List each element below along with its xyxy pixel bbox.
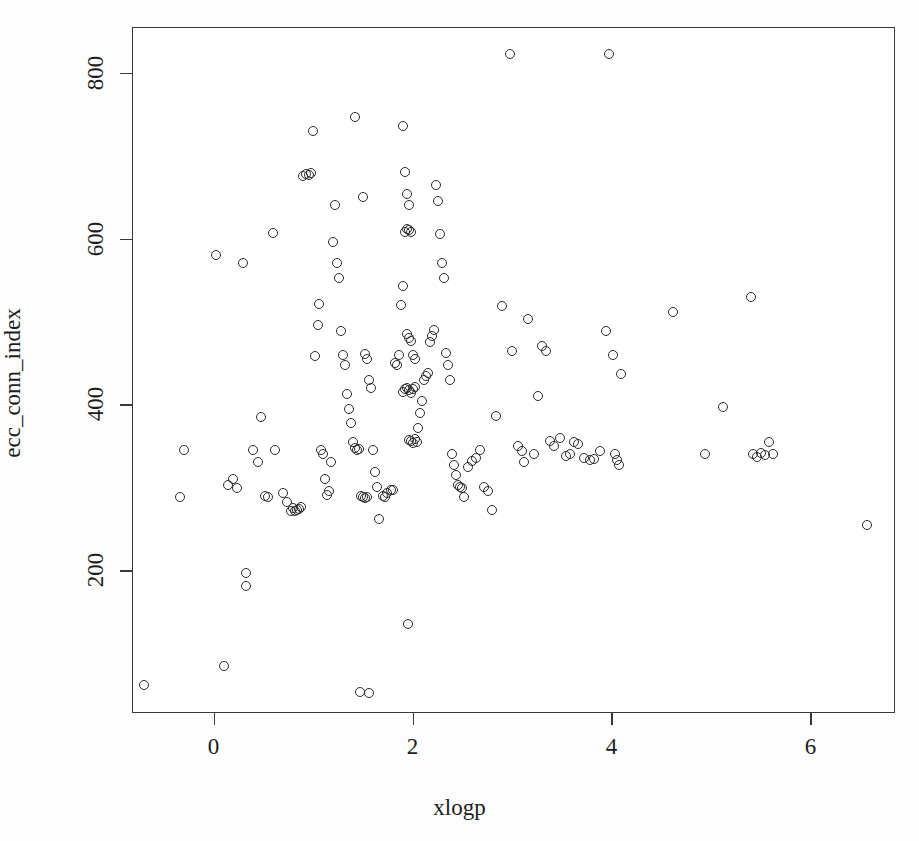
y-axis-tick	[120, 73, 132, 75]
x-axis-tick-label: 6	[805, 735, 817, 758]
x-axis-tick	[810, 713, 812, 725]
x-axis-tick-label: 2	[407, 735, 419, 758]
x-axis-tick-label: 0	[208, 735, 220, 758]
y-axis-tick-label: 800	[84, 55, 107, 90]
y-axis-tick	[120, 404, 132, 406]
y-axis-tick-label: 600	[84, 221, 107, 256]
y-axis-tick	[120, 239, 132, 241]
y-axis-tick-label: 400	[84, 387, 107, 422]
x-axis-tick	[611, 713, 613, 725]
y-axis-tick	[120, 570, 132, 572]
scatter-plot-figure: xlogp ecc_conn_index 0246200400600800	[0, 0, 919, 841]
x-axis-tick-label: 4	[606, 735, 618, 758]
plot-frame	[132, 27, 895, 713]
x-axis-tick	[214, 713, 216, 725]
y-axis-tick-label: 200	[84, 553, 107, 588]
y-axis-label: ecc_conn_index	[0, 308, 26, 457]
x-axis-tick	[413, 713, 415, 725]
x-axis-label: xlogp	[0, 795, 919, 821]
